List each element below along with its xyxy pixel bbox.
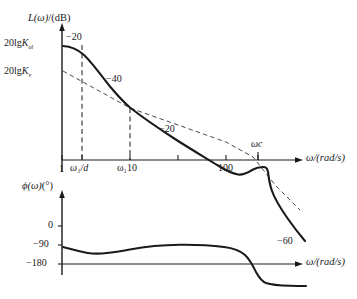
plot-canvas <box>0 0 357 299</box>
magnitude-response-curve <box>63 46 305 241</box>
magnitude-omega-c-label: ωc <box>251 139 263 149</box>
slope-label-minus60: −60 <box>277 236 293 246</box>
gain-label-kol: 20lgKol <box>4 38 33 50</box>
gain-label-kv-subscript: v <box>28 71 31 78</box>
magnitude-x-ticks <box>62 155 258 160</box>
slope-label-minus20-second: −20 <box>159 124 175 134</box>
gain-label-kv: 20lgKv <box>4 66 31 78</box>
magnitude-xtick-w1-over-d: ω₁/d <box>70 163 88 173</box>
magnitude-xtick-1: 1 <box>59 164 64 174</box>
gain-label-kol-subscript: ol <box>28 43 33 50</box>
phase-axis-title-unit: (°) <box>42 180 53 191</box>
magnitude-axis-title: L(ω)/(dB) <box>28 13 70 24</box>
phase-ytick-0: 0 <box>48 220 53 230</box>
phase-x-axis-label: ω/(rad/s) <box>306 257 345 268</box>
phase-axis-title-arg: (ω) <box>27 180 41 191</box>
magnitude-x-axis-label: ω/(rad/s) <box>306 153 345 164</box>
phase-ytick-minus180: −180 <box>26 258 47 268</box>
magnitude-axis-title-arg: (ω) <box>34 12 48 23</box>
magnitude-asymptote-curve <box>63 71 300 210</box>
magnitude-axes <box>59 23 303 172</box>
magnitude-xtick-w1-10: ω₁10 <box>117 163 137 173</box>
phase-axis-title: ϕ(ω)(°) <box>22 181 53 192</box>
gain-label-kol-prefix: 20lg <box>4 37 22 48</box>
magnitude-xtick-100: 100 <box>218 163 233 173</box>
magnitude-axis-title-unit: /(dB) <box>48 12 70 23</box>
phase-response-curve <box>63 245 306 286</box>
gain-label-kv-prefix: 20lg <box>4 65 22 76</box>
slope-label-minus20-first: −20 <box>66 32 82 42</box>
phase-ytick-minus90: −90 <box>33 239 49 249</box>
bode-plot-figure: L(ω)/(dB) 20lgKol 20lgKv −20 −40 −20 −60… <box>0 0 357 299</box>
slope-label-minus40: −40 <box>106 74 122 84</box>
phase-axes <box>59 190 303 275</box>
